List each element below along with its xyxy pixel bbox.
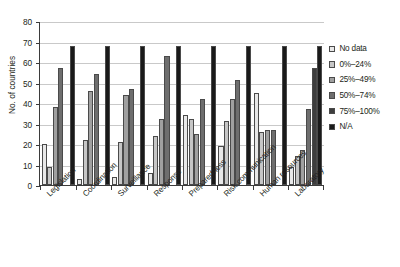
x-tick-mark: [111, 186, 112, 190]
chart-container: 01020304050607080 No. of countries Legis…: [0, 0, 400, 267]
x-tick-mark: [40, 186, 41, 190]
legend-swatch-icon: [329, 124, 335, 130]
legend-swatch-icon: [329, 61, 335, 67]
legend-item[interactable]: N/A: [329, 119, 397, 135]
legend-item[interactable]: 25%–49%: [329, 72, 397, 88]
x-tick-mark: [217, 186, 218, 190]
legend-label: 25%–49%: [339, 75, 375, 84]
legend-item[interactable]: No data: [329, 41, 397, 57]
x-tick-label: Coordination: [81, 161, 119, 199]
legend-item[interactable]: 50%–74%: [329, 88, 397, 104]
x-tick-mark: [323, 186, 324, 190]
legend-item[interactable]: 75%–100%: [329, 103, 397, 119]
x-tick-label: Legislation: [45, 166, 78, 199]
legend-swatch-icon: [329, 92, 335, 98]
legend-label: 50%–74%: [339, 91, 375, 100]
x-tick-mark: [147, 186, 148, 190]
legend-swatch-icon: [329, 46, 335, 52]
legend-label: No data: [339, 44, 366, 53]
legend-label: 75%–100%: [339, 107, 379, 116]
legend-label: N/A: [339, 122, 352, 131]
x-tick-label: Response: [152, 167, 183, 198]
legend-label: 0%–24%: [339, 60, 371, 69]
legend-swatch-icon: [329, 108, 335, 114]
x-tick-mark: [76, 186, 77, 190]
legend-swatch-icon: [329, 77, 335, 83]
x-tick-mark: [288, 186, 289, 190]
x-tick-label: Laboratory: [293, 166, 326, 199]
x-tick-label: Surveillance: [116, 162, 152, 198]
x-tick-mark: [253, 186, 254, 190]
x-tick-mark: [182, 186, 183, 190]
legend-item[interactable]: 0%–24%: [329, 57, 397, 73]
chart-legend: No data0%–24%25%–49%50%–74%75%–100%N/A: [329, 41, 397, 135]
